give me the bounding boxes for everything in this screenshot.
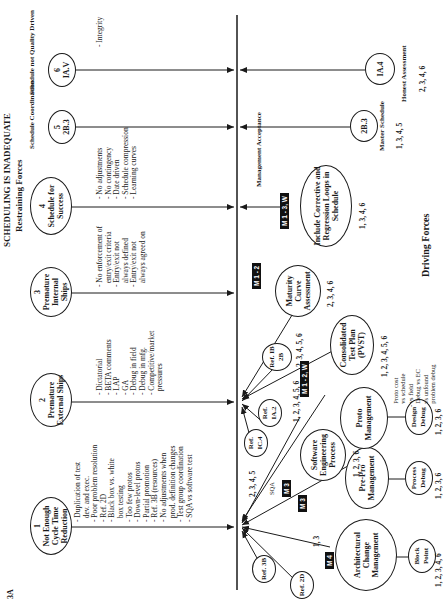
ref-ia2: Ref. IA.2 <box>258 399 282 427</box>
restraining-2-bullets: DictatorialBETA comments LAPGA Debug in … <box>96 331 165 395</box>
restraining-6-bullets: Integrity <box>96 17 105 47</box>
node-architectural-change: Architectural Change Management <box>335 519 397 591</box>
badge-m13w: M 1 - 3, W <box>280 193 289 229</box>
badge-m4: M 4 <box>325 552 334 569</box>
badge-m3-a: M 3 <box>298 495 307 512</box>
badge-m3-b: M 3 <box>282 480 291 497</box>
restraining-3-bullets: No enforcement ofentry/exit criteria Ent… <box>96 226 148 287</box>
node-maturity-curve: Maturity Curve Assessment <box>275 265 321 317</box>
node-block-point: Block Point <box>408 539 436 573</box>
restraining-6-caption: Schedule not Quality Driven <box>28 10 36 95</box>
restraining-node-3: 3Premature Internal Ships <box>30 267 72 317</box>
design-debug-nums: 1, 2, 3, 6 <box>434 409 443 435</box>
restraining-4-bullets: No adjustmentsNo contingency Date driven… <box>96 127 139 199</box>
restraining-node-5: 52B.3 <box>48 110 76 144</box>
badge-m12: M 1 - 2 <box>252 263 261 289</box>
master-schedule-nums: 1, 3, 4, 5 <box>395 123 404 149</box>
node-proto-management: Proto Management <box>340 387 388 449</box>
maturity-nums: 2, 3, 4, 6 <box>326 281 335 307</box>
badge-m12w: M 1 - 2, W <box>300 361 309 397</box>
sw-eng-nums: 1, 2, 3, 6 <box>352 451 361 477</box>
proto-notes: Proto costvs schedule vs fieldDebug vs E… <box>392 365 436 407</box>
ref-ib2b: Ref. IB 2B <box>262 343 292 371</box>
honest-assessment-caption: Honest Assessment <box>400 45 408 102</box>
ref-ic4-nums: 2, 3, 4, 5 <box>248 471 257 497</box>
restraining-node-1: 1Not Enough Cycle Time Reduction <box>30 497 72 555</box>
node-corrective-regression: Include Corrective and Regression Loops … <box>300 165 352 247</box>
master-schedule-caption: Master Schedule <box>378 101 386 151</box>
node-master-schedule: 2B.3 <box>350 110 378 142</box>
sqa-note: SQA <box>268 482 276 495</box>
driving-forces-label: Driving Forces <box>420 214 431 277</box>
arch-nums: 1, 3 <box>312 536 321 547</box>
restraining-1-bullets: Duplication of testdev. and exec. Poor p… <box>74 445 194 522</box>
page-number: 3A <box>6 589 15 599</box>
page-title: SCHEDULING IS INADEQUATE <box>2 113 12 247</box>
restraining-node-2: 2Premature External Ships <box>30 373 72 427</box>
process-debug-nums: 1, 2, 3, 6 <box>434 473 443 499</box>
node-software-engineering: Software Engineering Process <box>300 429 346 481</box>
restraining-node-6: 6IA.V <box>48 53 76 87</box>
corrective-nums: 1, 3, 4, 6 <box>358 203 367 229</box>
page-subtitle: Restraining Forces <box>14 159 24 232</box>
node-consolidated-test-plan: Consolidated Test Plan (PVST) <box>330 315 374 375</box>
node-process-debug: Process Debug <box>405 461 433 495</box>
management-acceptance: Management Acceptance <box>255 112 263 187</box>
node-honest-assessment: IA.4 <box>365 53 395 85</box>
ref-2d: Ref. 2D <box>290 571 314 599</box>
ctp-nums: 1, 2, 3, 4, 5, 6 <box>380 336 389 377</box>
ref-3b: Ref. 3B <box>252 555 276 583</box>
restraining-node-4: 4Schedule for Success <box>30 177 72 235</box>
ref-ic4: Ref. IC.4 <box>244 429 268 457</box>
block-point-nums: 1, 2, 3, 4, 6 <box>434 553 443 587</box>
honest-assessment-nums: 2, 3, 4, 6 <box>418 66 427 92</box>
